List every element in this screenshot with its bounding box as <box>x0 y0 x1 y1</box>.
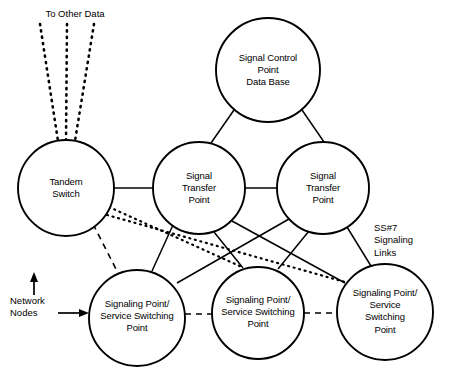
to-other-data-link-2 <box>66 24 67 141</box>
node-circle-ssp-right <box>337 264 433 360</box>
trunk-tandem-ssp-left <box>93 224 118 273</box>
ss7-network-diagram: Signal Control Point Data Base Tandem Sw… <box>0 0 451 373</box>
link-scp-stp-right <box>302 110 324 142</box>
to-other-data-link-1 <box>40 24 58 141</box>
to-other-data-link-3 <box>75 24 94 141</box>
to-other-data-links <box>40 24 94 141</box>
link-scp-stp-left <box>211 110 234 143</box>
annotation-ss7-signaling-links: SS#7 Signaling Links <box>374 222 413 259</box>
link-stp-left-ssp-left <box>152 225 173 271</box>
annotation-to-other-data: To Other Data <box>45 8 104 20</box>
node-circle-stp-left <box>153 142 245 234</box>
node-circle-tandem-switch <box>18 140 114 236</box>
node-circle-ssp-middle <box>212 267 304 359</box>
network-nodes-right-arrow-head <box>79 309 89 317</box>
network-nodes-up-arrow-head <box>30 272 38 282</box>
diagram-canvas <box>0 0 451 373</box>
node-circle-scp <box>216 18 320 122</box>
link-stp-right-ssp-middle <box>278 231 309 269</box>
link-stp-right-ssp-right <box>347 227 371 266</box>
annotation-network-nodes: Network Nodes <box>10 295 45 320</box>
node-circle-stp-right <box>277 142 369 234</box>
node-circle-ssp-left <box>89 270 185 366</box>
